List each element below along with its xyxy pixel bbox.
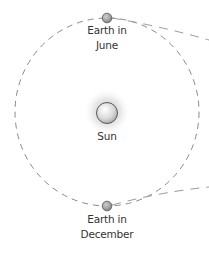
earth-december-icon [102, 201, 112, 211]
earth-june-label: Earth in June [67, 23, 147, 53]
sun-label-text: Sun [67, 129, 147, 144]
earth-june-label-line2: June [67, 38, 147, 53]
earth-june-label-line1: Earth in [67, 23, 147, 38]
sun-icon [97, 103, 118, 124]
earth-june-icon [102, 13, 112, 23]
earth-december-label-line2: December [67, 227, 147, 242]
earth-december-label-line1: Earth in [67, 212, 147, 227]
sun-label: Sun [67, 129, 147, 144]
december-sight-line [112, 187, 209, 205]
earth-december-label: Earth in December [67, 212, 147, 242]
